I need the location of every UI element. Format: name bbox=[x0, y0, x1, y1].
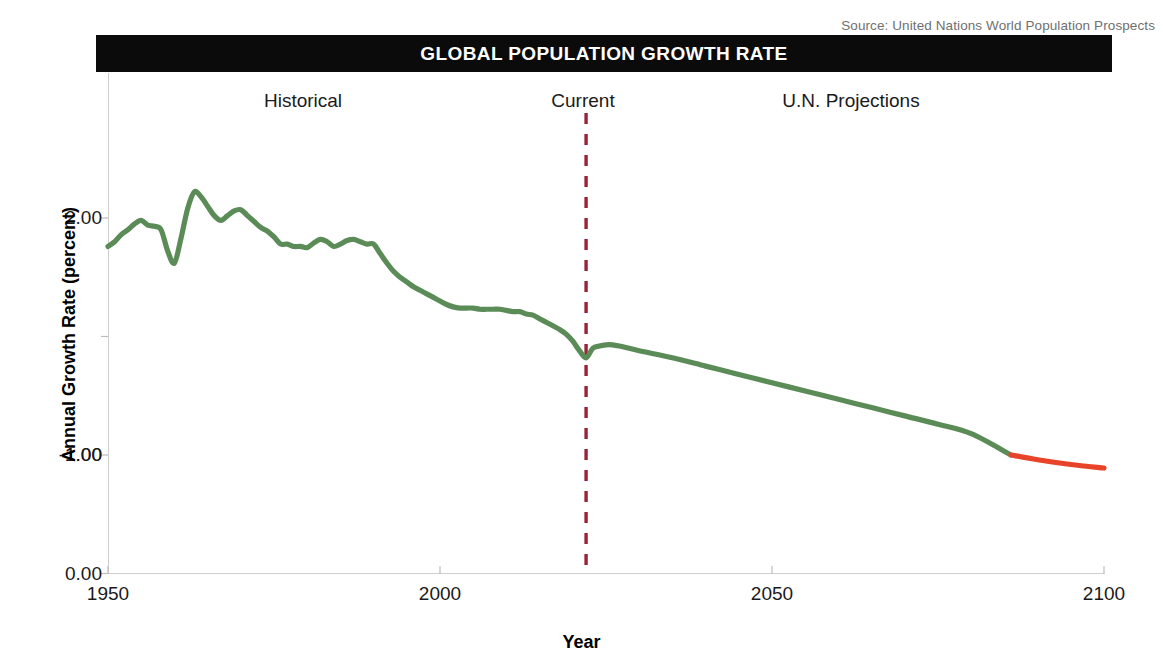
annotation-projections: U.N. Projections bbox=[782, 90, 919, 112]
growth-rate-line bbox=[108, 191, 1104, 468]
chart-figure: Source: United Nations World Population … bbox=[0, 0, 1163, 670]
x-tick-marks bbox=[108, 566, 1104, 574]
annotation-current: Current bbox=[551, 90, 614, 112]
x-tick-label: 2000 bbox=[419, 583, 461, 605]
x-tick-label: 1950 bbox=[87, 583, 129, 605]
annotation-historical: Historical bbox=[264, 90, 342, 112]
y-tick-label: 0.00 bbox=[40, 563, 102, 585]
y-axis-title: Annual Growth Rate (percent) bbox=[59, 170, 80, 500]
x-axis-title: Year bbox=[0, 632, 1163, 653]
x-tick-label: 2050 bbox=[751, 583, 793, 605]
y-tick-marks bbox=[101, 218, 108, 574]
x-tick-label: 2100 bbox=[1083, 583, 1125, 605]
